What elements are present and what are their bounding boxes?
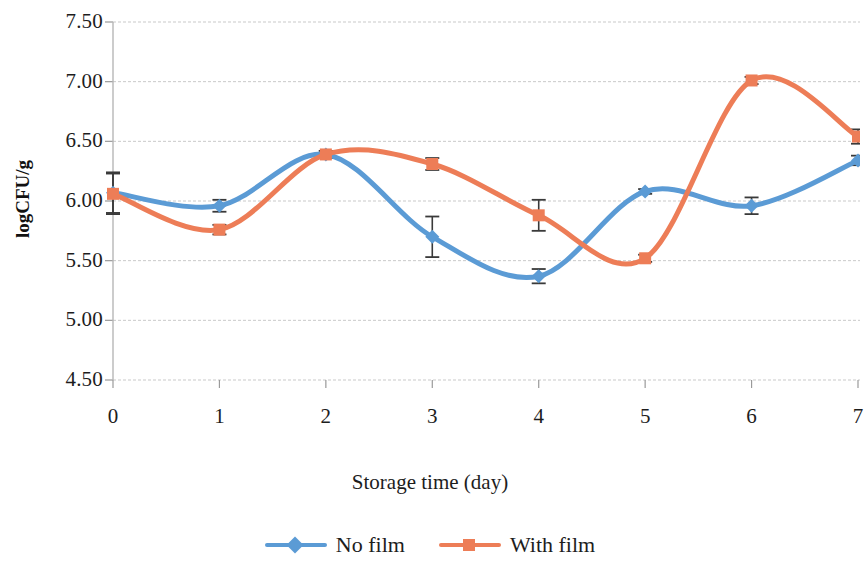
y-tick-label: 7.50 xyxy=(33,9,103,34)
chart-legend: No filmWith film xyxy=(0,532,860,558)
x-tick-label: 2 xyxy=(306,404,346,429)
legend-marker xyxy=(286,537,303,554)
x-tick-label: 6 xyxy=(732,404,772,429)
data-point-marker xyxy=(639,252,651,264)
legend-marker xyxy=(463,539,475,551)
plot-area xyxy=(0,0,860,400)
x-tick-label: 1 xyxy=(199,404,239,429)
data-point-marker xyxy=(320,148,332,160)
data-point-marker xyxy=(852,131,860,143)
legend-label: With film xyxy=(510,532,595,558)
data-point-marker xyxy=(532,269,546,283)
diamond-marker-icon xyxy=(265,535,327,555)
data-point-marker xyxy=(426,158,438,170)
y-tick-label: 5.50 xyxy=(33,248,103,273)
data-point-marker xyxy=(533,209,545,221)
y-tick-label: 4.50 xyxy=(33,367,103,392)
legend-item-no-film[interactable]: No film xyxy=(265,532,405,558)
data-point-marker xyxy=(746,74,758,86)
y-tick-label: 6.50 xyxy=(33,128,103,153)
x-axis-title: Storage time (day) xyxy=(0,470,860,495)
x-tick-label: 0 xyxy=(93,404,133,429)
square-marker-icon xyxy=(439,535,501,555)
data-point-marker xyxy=(745,199,759,213)
data-point-marker xyxy=(213,224,225,236)
x-tick-label: 7 xyxy=(838,404,868,429)
legend-label: No film xyxy=(336,532,405,558)
legend-item-with-film[interactable]: With film xyxy=(439,532,595,558)
series-markers-no-film xyxy=(106,147,860,283)
series-line-with-film xyxy=(113,77,858,264)
x-tick-label: 3 xyxy=(412,404,452,429)
x-tick-label: 4 xyxy=(519,404,559,429)
y-tick-label: 7.00 xyxy=(33,69,103,94)
data-point-marker xyxy=(638,184,652,198)
data-point-marker xyxy=(107,188,119,200)
data-series-layer xyxy=(106,74,860,283)
y-tick-label: 6.00 xyxy=(33,188,103,213)
series-line-no-film xyxy=(113,154,858,277)
series-markers-with-film xyxy=(107,74,860,264)
y-tick-label: 5.00 xyxy=(33,307,103,332)
x-tick-label: 5 xyxy=(625,404,665,429)
